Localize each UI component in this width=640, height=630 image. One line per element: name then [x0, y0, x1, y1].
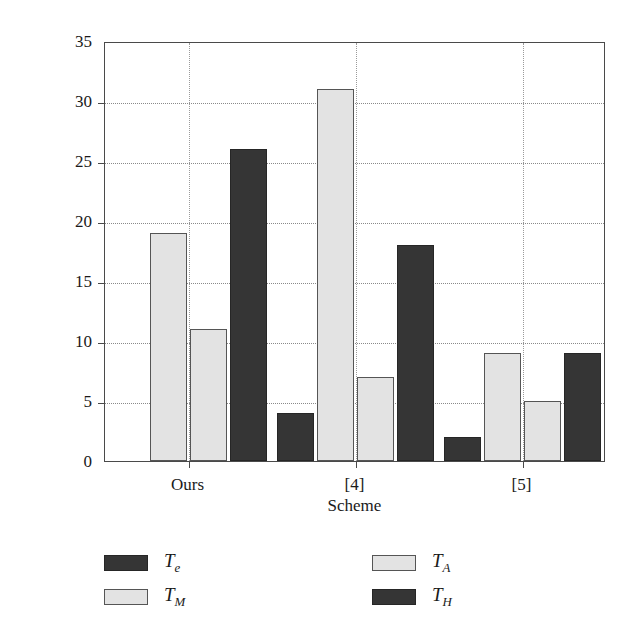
legend-item-Te[interactable]: Te — [104, 552, 180, 574]
bar-TA-5 — [524, 401, 561, 461]
legend-label-TM: TM — [164, 584, 185, 610]
x-tick-label-[5]: [5] — [467, 476, 577, 493]
bar-TH-5 — [564, 353, 601, 461]
y-tick-label-35: 35 — [46, 33, 92, 50]
bar-TH-4 — [397, 245, 434, 461]
legend-swatch-TA — [372, 555, 416, 571]
y-tick-label-10: 10 — [46, 333, 92, 350]
y-tick-25 — [98, 163, 105, 164]
y-tick-label-0: 0 — [46, 453, 92, 470]
bar-TM-4 — [317, 89, 354, 461]
bar-chart-figure: Computational cost 05101520253035 Ours[4… — [0, 0, 640, 630]
x-axis-title: Scheme — [104, 496, 605, 516]
bar-Te-5 — [444, 437, 481, 461]
bar-Te-4 — [277, 413, 314, 461]
plot-inner — [105, 43, 604, 461]
y-tick-label-20: 20 — [46, 213, 92, 230]
y-tick-20 — [98, 223, 105, 224]
legend-swatch-Te — [104, 555, 148, 571]
chart-legend: TeTMTATH — [104, 552, 524, 614]
x-tick-Ours — [189, 461, 190, 468]
legend-item-TM[interactable]: TM — [104, 586, 185, 608]
legend-swatch-TH — [372, 589, 416, 605]
y-tick-label-30: 30 — [46, 93, 92, 110]
y-tick-10 — [98, 343, 105, 344]
legend-item-TH[interactable]: TH — [372, 586, 452, 608]
bar-TM-Ours — [150, 233, 187, 461]
y-tick-label-25: 25 — [46, 153, 92, 170]
legend-swatch-TM — [104, 589, 148, 605]
y-tick-label-15: 15 — [46, 273, 92, 290]
y-tick-15 — [98, 283, 105, 284]
gridline-y-25 — [105, 163, 604, 164]
y-axis-title-text: Computational cost — [12, 0, 34, 64]
y-tick-label-5: 5 — [46, 393, 92, 410]
bar-TA-Ours — [190, 329, 227, 461]
bar-TH-Ours — [230, 149, 267, 461]
legend-item-TA[interactable]: TA — [372, 552, 450, 574]
gridline-x-[5] — [523, 43, 524, 461]
gridline-y-30 — [105, 103, 604, 104]
y-tick-5 — [98, 403, 105, 404]
x-tick-[5] — [523, 461, 524, 468]
y-tick-30 — [98, 103, 105, 104]
legend-label-Te: Te — [164, 550, 180, 576]
gridline-y-20 — [105, 223, 604, 224]
bar-TA-4 — [357, 377, 394, 461]
plot-area — [104, 42, 605, 462]
legend-label-TA: TA — [432, 550, 450, 576]
x-tick-[4] — [356, 461, 357, 468]
bar-TM-5 — [484, 353, 521, 461]
x-tick-label-[4]: [4] — [300, 476, 410, 493]
x-tick-label-Ours: Ours — [133, 476, 243, 493]
y-axis-title: Computational cost — [12, 0, 34, 64]
legend-label-TH: TH — [432, 584, 452, 610]
